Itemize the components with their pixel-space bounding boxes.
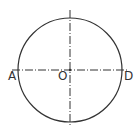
circle-diagram: A O D	[0, 0, 137, 137]
point-label-a: A	[8, 69, 17, 83]
point-label-o: O	[58, 69, 67, 83]
diagram-canvas: A O D	[0, 0, 137, 137]
point-label-d: D	[124, 69, 133, 83]
center-point	[69, 69, 71, 71]
